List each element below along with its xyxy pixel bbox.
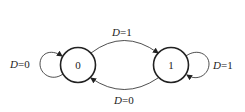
- self-loop-0: [40, 52, 63, 77]
- state-diagram: 0 1 D=0 D=1 D=1 D=0: [0, 0, 245, 112]
- state-1-label: 1: [168, 59, 174, 71]
- transition-1-to-0: [91, 78, 158, 90]
- transition-0-to-1: [91, 41, 158, 54]
- transition-label-0-0: D=0: [9, 58, 30, 70]
- state-1: 1: [154, 48, 189, 83]
- transition-label-1-0: D=0: [113, 94, 134, 106]
- transition-label-1-1: D=1: [212, 59, 233, 71]
- self-loop-1: [186, 52, 209, 77]
- transition-label-0-1: D=1: [111, 26, 132, 38]
- state-0: 0: [61, 48, 96, 83]
- state-0-label: 0: [75, 59, 81, 71]
